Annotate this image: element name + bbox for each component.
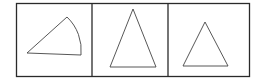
panel-2-tall-triangle (110, 9, 156, 67)
panel-3-triangle (183, 22, 228, 66)
panel-1-sector-shape (27, 17, 81, 55)
triangle-panels-figure (0, 0, 255, 83)
